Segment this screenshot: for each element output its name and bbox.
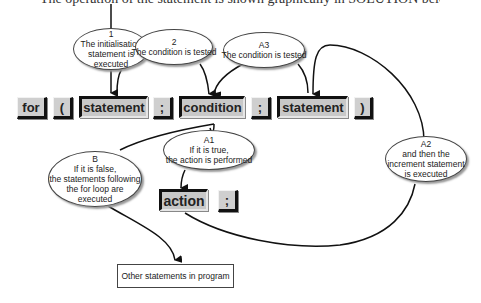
ellipse-stepA1: A1 If it is true, the action is performe… bbox=[163, 130, 255, 170]
token-semicolon-1: ; bbox=[153, 97, 173, 119]
arrow-A2-to-increment bbox=[313, 45, 424, 141]
token-open-paren: ( bbox=[53, 97, 73, 119]
step2-label: 2 bbox=[172, 37, 177, 47]
arrow-step2-to-condition bbox=[200, 64, 209, 94]
ellipse-stepA3: A3 The condition is tested bbox=[223, 32, 305, 68]
step1-line3: executed bbox=[94, 59, 129, 69]
token-close-paren: ) bbox=[354, 97, 373, 119]
stepB-label: B bbox=[92, 154, 98, 164]
other-statements-box: Other statements in program bbox=[117, 264, 234, 288]
stepA3-line1: The condition is tested bbox=[221, 50, 306, 60]
step1-line2: statement is bbox=[88, 49, 134, 59]
ellipse-step2: 2 The condition is tested bbox=[135, 29, 213, 65]
stepA1-line1: If it is true, bbox=[189, 145, 228, 155]
stepB-line4: executed bbox=[78, 194, 113, 204]
token-action: action bbox=[159, 189, 208, 211]
stepA2-label: A2 bbox=[421, 139, 431, 149]
token-for: for bbox=[17, 97, 47, 119]
stepB-line3: the for loop are bbox=[66, 184, 123, 194]
stepB-line2: the statements following bbox=[49, 174, 140, 184]
token-increment-statement: statement bbox=[277, 96, 348, 118]
arrow-increment-to-A3 bbox=[298, 64, 308, 93]
stepA1-label: A1 bbox=[204, 135, 214, 145]
arrow-A3-to-condition bbox=[214, 64, 243, 94]
step1-label: 1 bbox=[109, 29, 114, 39]
step2-line1: The condition is tested bbox=[131, 47, 216, 57]
ellipse-stepA2: A2 and then the increment statement is e… bbox=[385, 136, 467, 182]
arrow-B-to-other bbox=[108, 206, 175, 260]
token-init-statement: statement bbox=[79, 96, 148, 118]
token-action-semicolon: ; bbox=[218, 190, 238, 212]
arrow-A1-to-action bbox=[181, 170, 185, 188]
stepA2-line1: and then the bbox=[402, 149, 449, 159]
stepA2-line3: is executed bbox=[405, 169, 448, 179]
stepA2-line2: increment statement bbox=[387, 159, 464, 169]
stepA1-line2: the action is performed bbox=[166, 155, 252, 165]
stepA3-label: A3 bbox=[259, 40, 269, 50]
ellipse-stepB: B If it is false, the statements followi… bbox=[48, 151, 142, 207]
token-semicolon-2: ; bbox=[251, 97, 271, 119]
stepB-line1: If it is false, bbox=[74, 164, 117, 174]
token-condition: condition bbox=[179, 96, 245, 118]
